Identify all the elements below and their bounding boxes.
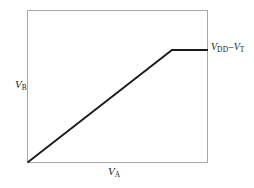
y-axis-subscript: B — [22, 83, 27, 92]
saturation-subscript-2: T — [240, 45, 245, 54]
transfer-curve — [28, 50, 209, 163]
x-axis-label: VA — [108, 166, 120, 177]
x-axis-subscript: A — [115, 170, 121, 179]
saturation-symbol-2: V — [234, 41, 240, 52]
curve-layer — [0, 0, 254, 188]
saturation-subscript-1: DD — [217, 45, 228, 54]
transfer-characteristic-figure: VB VA VDD–VT — [0, 0, 254, 188]
x-axis-symbol: V — [108, 165, 115, 177]
y-axis-symbol: V — [15, 78, 22, 90]
y-axis-label: VB — [15, 79, 27, 90]
saturation-level-label: VDD–VT — [211, 42, 245, 52]
